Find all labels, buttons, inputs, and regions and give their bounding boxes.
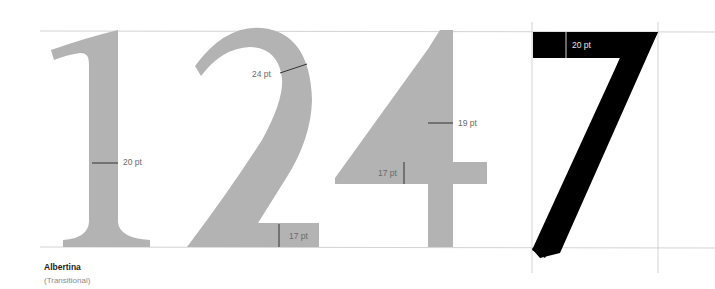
glyph-four [335, 30, 487, 247]
glyph-two [187, 28, 319, 247]
typeface-classification: (Transitional) [44, 276, 90, 285]
one-stem-label: 20 pt [123, 157, 142, 167]
four-crossbar-label: 17 pt [378, 168, 397, 178]
typeface-stroke-diagram: 20 pt 24 pt 17 pt 19 pt 17 pt 20 pt Albe… [0, 0, 715, 289]
glyph-seven-stem [532, 32, 658, 258]
two-bowl-label: 24 pt [252, 69, 271, 79]
glyph-one [51, 30, 150, 247]
glyph-artwork [0, 0, 715, 289]
two-base-label: 17 pt [289, 231, 308, 241]
four-stem-label: 19 pt [458, 118, 477, 128]
cap-height-guide [40, 31, 715, 32]
seven-top-label: 20 pt [572, 40, 591, 50]
baseline-guide [40, 247, 715, 248]
typeface-name: Albertina [44, 262, 81, 272]
